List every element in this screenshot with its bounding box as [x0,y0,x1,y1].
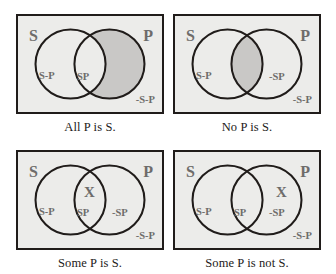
venn-box: S P X S-P SP -SP -S-P [16,150,164,250]
panel-caption: All P is S. [16,120,164,135]
venn-box: S P S-P SP -S-P [16,14,164,114]
circle-s [193,165,263,234]
venn-panel-no-p-is-s: S P S-P -SP -S-P No P is S. [173,14,321,135]
venn-circles-graphic [18,16,162,112]
panel-caption: No P is S. [173,120,321,135]
circle-s [36,165,106,234]
circle-p [74,165,144,234]
panel-caption: Some P is not S. [173,256,321,271]
venn-box: S P X S-P SP -SP -S-P [173,150,321,250]
venn-circles-graphic [18,152,162,248]
venn-box: S P S-P -SP -S-P [173,14,321,114]
venn-diagram-figure: S P S-P SP -S-P All P is S. [0,0,336,274]
venn-panel-some-p-is-not-s: S P X S-P SP -SP -S-P Some P is not S. [173,150,321,271]
venn-panel-all-p-is-s: S P S-P SP -S-P All P is S. [16,14,164,135]
venn-circles-graphic [175,152,319,248]
panel-caption: Some P is S. [16,256,164,271]
venn-circles-graphic [175,16,319,112]
circle-p [231,165,301,234]
venn-panel-some-p-is-s: S P X S-P SP -SP -S-P Some P is S. [16,150,164,271]
